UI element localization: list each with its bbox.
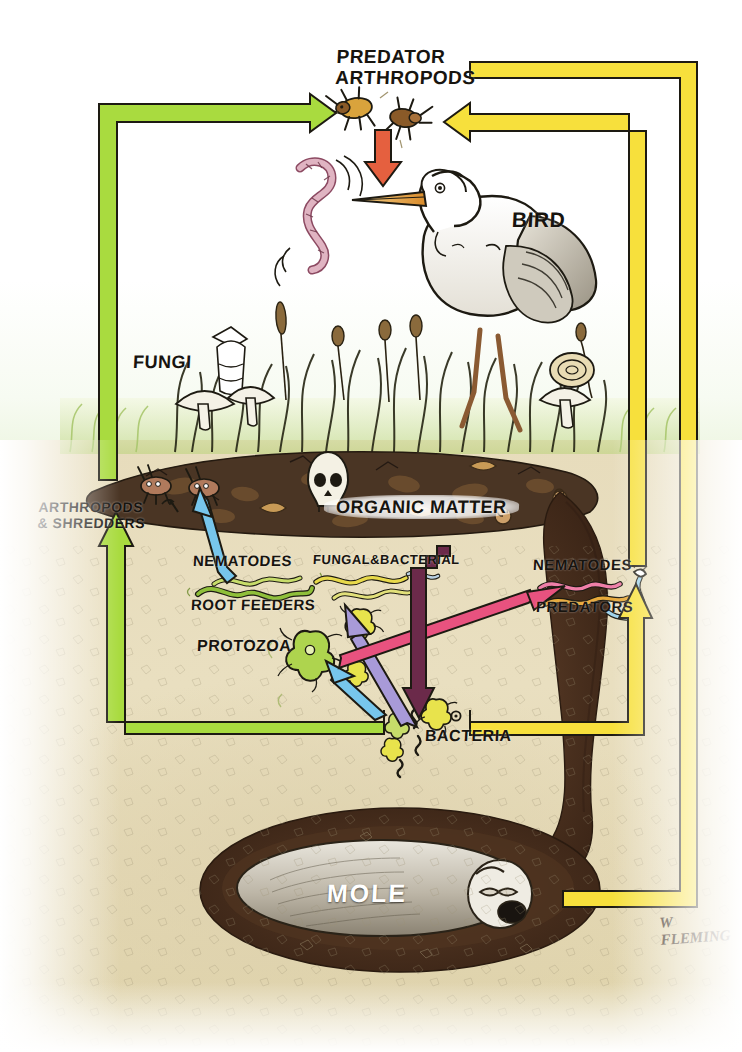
soil-left-vignette (0, 440, 120, 1052)
predator-arthropods-illustration (324, 86, 436, 148)
soil-food-web-illustration: PREDATOR ARTHROPODS BIRD FUNGI ARTHROPOD… (0, 0, 742, 1052)
grass-row (60, 302, 700, 454)
soil-right-vignette (612, 440, 742, 1052)
earthworm-illustration (275, 156, 362, 286)
soil-bottom-vignette (0, 982, 742, 1052)
